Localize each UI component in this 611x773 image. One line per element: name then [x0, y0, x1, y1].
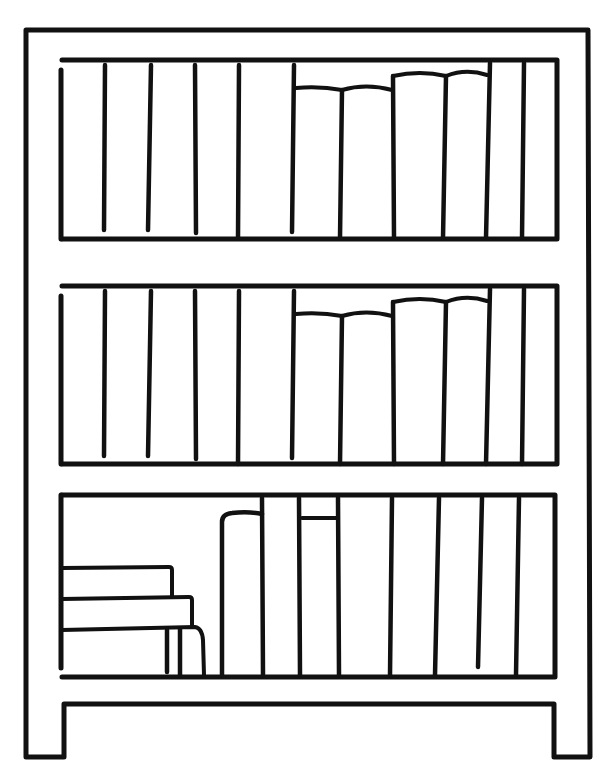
book-top: [446, 72, 487, 76]
bookshelf-frame: [26, 30, 590, 757]
book-top: [342, 313, 392, 317]
stacked-book: [62, 597, 192, 626]
book-spine: [195, 65, 196, 233]
book-spine: [443, 302, 446, 464]
book-top: [393, 299, 446, 302]
book-spine: [292, 291, 294, 458]
book-spine: [338, 498, 339, 675]
book-spine: [262, 498, 263, 675]
book-spine: [478, 498, 482, 667]
middle-shelf: [61, 286, 557, 464]
book-spine: [522, 289, 524, 464]
stacked-book: [62, 627, 204, 675]
stacked-book: [62, 567, 172, 596]
book-spine: [516, 498, 519, 675]
book-spine: [148, 65, 151, 230]
book-spine: [238, 291, 239, 464]
book-spine: [486, 289, 490, 464]
bookshelf-illustration: [0, 0, 611, 773]
book-top: [393, 73, 446, 76]
book-spine: [390, 498, 392, 675]
book-spine: [443, 76, 446, 238]
frame-outline: [26, 30, 590, 757]
book-spine: [292, 65, 294, 232]
book-spine: [522, 63, 524, 238]
book-spine: [340, 316, 342, 464]
book-spine: [104, 291, 105, 456]
book-spine: [435, 498, 439, 675]
book-spine: [238, 65, 239, 238]
book-spine: [148, 291, 151, 456]
book-top: [296, 313, 342, 316]
book-spine: [486, 63, 490, 238]
top-shelf: [61, 60, 557, 239]
book-spine: [195, 291, 196, 459]
book-top: [446, 298, 487, 302]
book-spine: [340, 90, 342, 238]
book-spine: [104, 65, 105, 230]
book-spine: [393, 76, 394, 238]
book-top: [296, 87, 342, 90]
book-spine: [393, 302, 394, 464]
book-top: [342, 87, 392, 91]
book-outline: [222, 512, 262, 675]
bottom-shelf: [61, 495, 555, 677]
book-spine: [299, 498, 300, 675]
